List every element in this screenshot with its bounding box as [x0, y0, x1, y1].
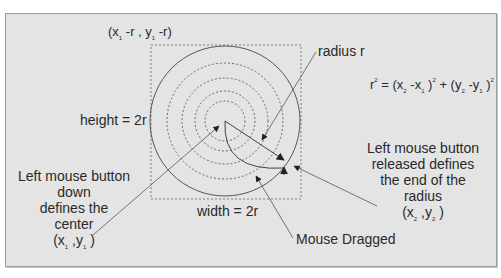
radius-label: radius r: [318, 44, 365, 59]
end-description: Left mouse button released defines the e…: [358, 140, 488, 223]
drag-arc: [225, 121, 284, 168]
radius-pointer: [262, 52, 316, 140]
center-description: Left mouse button down defines the cente…: [18, 168, 130, 251]
radius-formula: r2 = (x2 -x1 )2 + (y2 -y1 )2: [370, 77, 494, 95]
height-label: height = 2r: [80, 113, 147, 128]
dragged-pointer: [256, 176, 293, 238]
top-corner-label: (x1 -r , y1 -r): [108, 24, 172, 42]
width-label: width = 2r: [197, 204, 258, 219]
mouse-dragged-label: Mouse Dragged: [296, 232, 396, 247]
